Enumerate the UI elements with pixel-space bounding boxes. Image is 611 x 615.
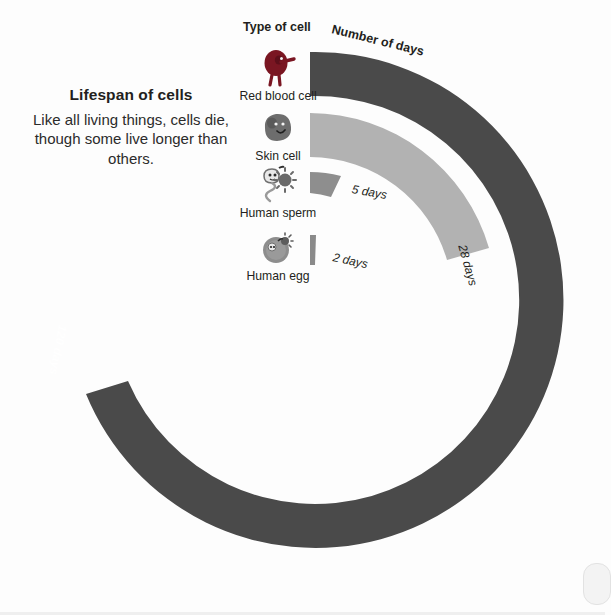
legend-label-human-egg: Human egg <box>222 270 334 282</box>
legend-label-human-sperm: Human sperm <box>222 207 334 219</box>
corner-chip[interactable] <box>583 563 611 605</box>
human-sperm-icon <box>222 165 334 205</box>
skin-cell-icon <box>222 108 334 148</box>
legend-item-red-blood-cell: Red blood cell <box>222 48 334 102</box>
legend-label-skin-cell: Skin cell <box>222 150 334 162</box>
legend-item-human-sperm: Human sperm <box>222 165 334 219</box>
page-subtitle: Like all living things, cells die, thoug… <box>12 110 250 169</box>
title-block: Lifespan of cells Like all living things… <box>12 86 250 169</box>
red-blood-cell-icon <box>222 48 334 88</box>
legend-label-red-blood-cell: Red blood cell <box>222 90 334 102</box>
page-title: Lifespan of cells <box>12 86 250 105</box>
human-egg-icon <box>222 228 334 268</box>
column-header-type-of-cell: Type of cell <box>243 20 311 34</box>
legend-item-skin-cell: Skin cell <box>222 108 334 162</box>
legend-item-human-egg: Human egg <box>222 228 334 282</box>
